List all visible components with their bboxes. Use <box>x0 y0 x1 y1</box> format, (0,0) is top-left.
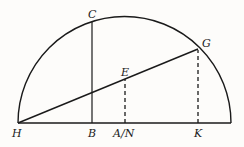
label-an: A/N <box>112 127 135 140</box>
semicircle-diagram: H B A/N K C E G <box>0 0 244 147</box>
label-g: G <box>202 37 211 50</box>
label-c: C <box>88 8 97 21</box>
label-b: B <box>87 127 96 140</box>
chord-hg <box>18 49 198 123</box>
label-e: E <box>120 66 129 79</box>
label-k: K <box>193 127 203 140</box>
label-h: H <box>11 127 22 140</box>
